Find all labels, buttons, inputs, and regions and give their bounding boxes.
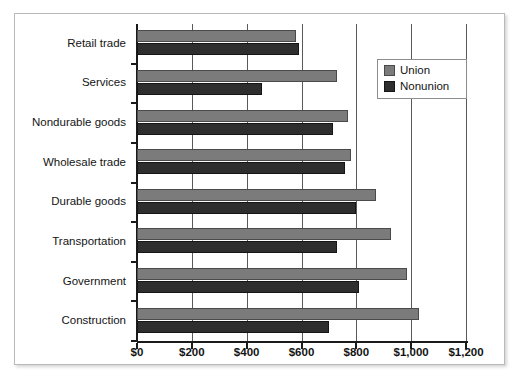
bar-row: Government (137, 262, 466, 302)
legend-swatch-nonunion-icon (384, 81, 395, 92)
chart-card: Retail tradeServicesNondurable goodsWhol… (14, 13, 505, 365)
category-label-services: Services (82, 77, 126, 89)
legend-label-nonunion: Nonunion (400, 81, 449, 93)
bar-union-transportation (137, 228, 391, 240)
legend-item-union: Union (384, 65, 460, 77)
category-label-government: Government (63, 276, 126, 288)
bar-union-retail-trade (137, 30, 296, 42)
x-tick-label-1200: $1,200 (448, 346, 483, 358)
legend-label-union: Union (400, 65, 430, 77)
bar-nonunion-durable-goods (137, 202, 356, 214)
x-tick-label-200: $200 (179, 346, 205, 358)
bar-union-durable-goods (137, 189, 376, 201)
x-tick-label-0: $0 (131, 346, 144, 358)
bar-row: Nondurable goods (137, 103, 466, 143)
bar-row: Retail trade (137, 24, 466, 64)
bar-nonunion-government (137, 281, 359, 293)
bar-row: Wholesale trade (137, 143, 466, 183)
chart-legend: Union Nonunion (377, 59, 467, 99)
category-label-durable-goods: Durable goods (51, 196, 126, 208)
bar-row: Construction (137, 301, 466, 341)
x-tick-label-800: $800 (344, 346, 370, 358)
x-tick-label-600: $600 (289, 346, 315, 358)
legend-item-nonunion: Nonunion (384, 81, 460, 93)
category-label-wholesale-trade: Wholesale trade (43, 157, 126, 169)
category-label-retail-trade: Retail trade (67, 38, 126, 50)
category-label-construction: Construction (61, 315, 126, 327)
x-tick-label-400: $400 (234, 346, 260, 358)
bar-nonunion-wholesale-trade (137, 162, 345, 174)
bar-row: Durable goods (137, 183, 466, 223)
category-label-transportation: Transportation (52, 236, 126, 248)
bar-nonunion-construction (137, 321, 329, 333)
x-tick-label-1000: $1,000 (394, 346, 429, 358)
x-axis-line (137, 341, 468, 343)
bar-nonunion-nondurable-goods (137, 123, 333, 135)
bar-union-wholesale-trade (137, 149, 351, 161)
bar-row: Transportation (137, 222, 466, 262)
bar-union-services (137, 70, 337, 82)
legend-swatch-union-icon (384, 65, 395, 76)
bar-nonunion-services (137, 83, 262, 95)
bar-nonunion-transportation (137, 241, 337, 253)
bar-union-nondurable-goods (137, 110, 348, 122)
bar-union-government (137, 268, 407, 280)
category-label-nondurable-goods: Nondurable goods (32, 117, 126, 129)
bar-union-construction (137, 308, 419, 320)
bar-nonunion-retail-trade (137, 43, 299, 55)
